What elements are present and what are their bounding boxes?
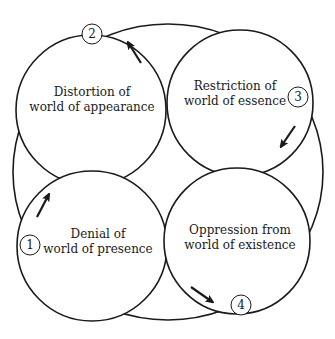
label-line: Restriction of	[184, 79, 286, 94]
label-oppression: Oppression from world of existence	[184, 223, 295, 253]
step-badge-1: 1	[20, 235, 41, 256]
diagram-canvas	[0, 0, 335, 339]
label-distortion: Distortion of world of appearance	[29, 85, 154, 115]
label-line: Distortion of	[29, 85, 154, 100]
label-line: Denial of	[43, 227, 152, 242]
cycle-diagram: Distortion of world of appearance Restri…	[0, 0, 335, 339]
label-line: world of existence	[184, 238, 295, 253]
label-restriction: Restriction of world of essence	[184, 79, 286, 109]
label-line: world of appearance	[29, 100, 154, 115]
step-badge-3: 3	[288, 87, 309, 108]
label-line: world of presence	[43, 242, 152, 257]
label-denial: Denial of world of presence	[43, 227, 152, 257]
step-badge-2: 2	[82, 24, 103, 45]
label-line: Oppression from	[184, 223, 295, 238]
label-line: world of essence	[184, 94, 286, 109]
step-badge-4: 4	[231, 295, 252, 316]
